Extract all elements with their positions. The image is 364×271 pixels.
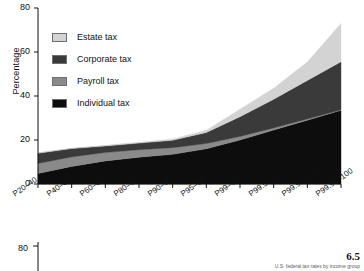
- legend-swatch-icon: [52, 77, 67, 86]
- legend-item-label: Estate tax: [77, 32, 117, 42]
- second-panel-ytick-label: 80: [18, 244, 28, 253]
- legend-item[interactable]: Payroll tax: [52, 70, 132, 92]
- legend-item-label: Individual tax: [77, 98, 130, 108]
- y-axis-tick-label: 80: [10, 3, 30, 12]
- figure-caption: U.S. federal tax rates by income group: [275, 263, 360, 269]
- legend-item[interactable]: Individual tax: [52, 92, 132, 114]
- figure-root: Percentage 020406080 P20–40P40–60P60–80P…: [0, 0, 364, 271]
- figure-number: 6.5: [346, 250, 360, 262]
- legend-item-label: Payroll tax: [77, 76, 119, 86]
- y-axis-title: Percentage: [11, 23, 21, 119]
- legend-item[interactable]: Estate tax: [52, 26, 132, 48]
- legend-item[interactable]: Corporate tax: [52, 48, 132, 70]
- legend-swatch-icon: [52, 55, 67, 64]
- y-axis-tick-label: 40: [10, 91, 30, 100]
- chart-legend: Estate taxCorporate taxPayroll taxIndivi…: [52, 26, 132, 114]
- y-axis-tick-label: 60: [10, 47, 30, 56]
- legend-item-label: Corporate tax: [77, 54, 132, 64]
- stacked-area-chart: Percentage 020406080 P20–40P40–60P60–80P…: [0, 0, 364, 232]
- legend-swatch-icon: [52, 33, 67, 42]
- legend-swatch-icon: [52, 99, 67, 108]
- y-axis-tick-label: 20: [10, 135, 30, 144]
